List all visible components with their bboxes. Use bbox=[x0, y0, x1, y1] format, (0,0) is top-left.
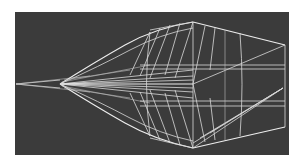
wireframe-figure bbox=[0, 0, 299, 164]
